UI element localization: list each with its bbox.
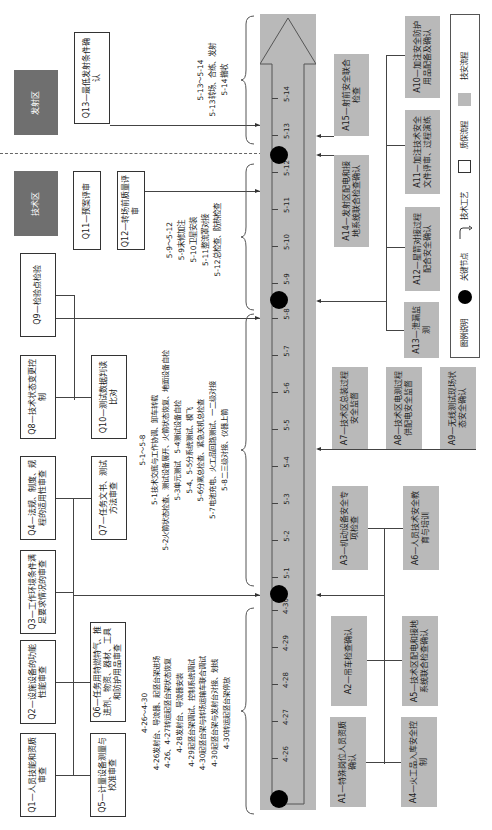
process-line: 4-30起竖台架与转场运输车联合调试: [198, 623, 210, 803]
tick-label: 4-29: [282, 635, 290, 651]
tick-label: 5-13: [283, 123, 291, 139]
safety-box-a5: A5—技术区配电和接地系统联合检查确认: [402, 616, 438, 706]
process-line: 5-9末修加注: [176, 180, 188, 300]
tick-label: 5-1: [283, 567, 291, 578]
zone-label-technical: 技术区: [14, 171, 58, 236]
process-line: 4-26、4-27转运起竖台架状态恢复: [163, 623, 175, 803]
zone-divider: [0, 153, 262, 154]
quality-box-q1: Q1—人员技能和资质审查: [20, 733, 56, 817]
process-line: 5-14撤收: [219, 25, 231, 135]
brace-p1: [240, 606, 256, 816]
legend-quality-icon: [458, 160, 471, 173]
brace-p2: [240, 312, 256, 588]
process-block-p1: 4-26～4-30 4-26发射台、导流器、起竖台架进场 4-26、4-27转运…: [134, 618, 238, 808]
process-title: 5-9～5-12: [164, 180, 176, 300]
process-line: 5-7电池充电、火工品回路测试、一二级对接: [207, 325, 219, 575]
quality-box-q13: Q13—最低发射条件确认: [74, 32, 110, 124]
legend-safety-icon: [458, 93, 471, 106]
tick-label: 5-9: [283, 273, 291, 284]
legend-quality-label: 质保流程: [451, 115, 479, 155]
process-line: 5-3单元测试 5-4测试设备自检: [172, 325, 184, 575]
quality-box-q9: Q9—检验点检验: [20, 253, 56, 337]
tick-label: 5-7: [283, 345, 291, 356]
tick-label: 5-14: [283, 86, 291, 102]
legend-key-node-label: 关键节点: [451, 247, 479, 287]
safety-box-a9: A9—无线测试现场状态安全确认: [440, 367, 476, 449]
safety-box-a7: A7—技术区总装过程安全监督: [332, 367, 368, 449]
safety-box-a8: A8—技术区电测过程供配电安全监督: [386, 367, 422, 449]
quality-box-q5: Q5—计量设备测量与校准审查: [90, 733, 126, 817]
safety-box-a12: A12—星箭对接过程配合安全确认: [405, 207, 440, 291]
quality-box-q7: Q7—任务文书、测试方法审查: [91, 456, 127, 540]
key-node-icon: [270, 790, 288, 808]
process-title: 5-13～5-14: [195, 25, 207, 135]
process-line: 5-6分离总检查、紧急关机总检查: [196, 325, 208, 575]
key-node-icon: [270, 146, 288, 164]
brace-p4: [240, 14, 256, 146]
process-line: 4-30转运起竖台架停放: [221, 623, 233, 803]
process-line: 4-29起竖台架调试、控制系统调试: [186, 623, 198, 803]
process-line: 5-8二三级对接、仪器上箭: [219, 325, 231, 575]
quality-box-q12: Q12—转场前质量评审: [117, 171, 145, 250]
tick-label: 5-4: [283, 456, 291, 467]
safety-box-a15: A15—射前安全联合检查: [334, 54, 369, 136]
safety-box-a3: A3—机动设备安全专项检查: [332, 486, 368, 570]
safety-box-a10: A10—加注安全防护用品配备及确认: [405, 16, 440, 98]
tick-label: 5-2: [283, 530, 291, 541]
process-line: 5-4、5-5分系统测试、模飞: [184, 325, 196, 575]
tick-label: 4-26: [282, 746, 290, 762]
tick-label: 5-3: [283, 493, 291, 504]
process-line: 5-13转场、合练、发射: [207, 25, 219, 135]
safety-box-a11: A11—加注技术安全文件评审、过程演练: [405, 110, 440, 194]
process-block-p3: 5-9～5-12 5-9末修加注 5-10卫星安装 5-11整流罩对接 5-12…: [152, 180, 236, 300]
tick-label: 5-11: [283, 197, 291, 213]
safety-box-a13: A13—泄漏监测: [404, 302, 439, 358]
process-block-p4: 5-13～5-14 5-13转场、合练、发射 5-14撤收: [188, 30, 238, 130]
process-line: 5-12总检查、防热检查: [212, 180, 224, 300]
process-block-p2: 5-1～5-8 5-1技术交底与工作协调、卸车转载 5-2火箭状态检查、测试设备…: [130, 325, 238, 575]
quality-box-q4: Q4—法规、制度、规程的适用性审查: [20, 456, 56, 540]
process-line: 5-10卫星安装: [188, 180, 200, 300]
process-line: 4-30起竖台架与发射台对接、划线: [209, 623, 221, 803]
tick-label: 4-27: [282, 709, 290, 725]
quality-box-q3: Q3—工作环境条件满足要求情况的审查: [20, 550, 56, 634]
legend-title: 图例说明: [451, 311, 479, 355]
process-line: 4-26发射台、导流器、起竖台架进场: [151, 623, 163, 803]
process-line: 5-11整流罩对接: [200, 180, 212, 300]
key-node-icon: [270, 585, 288, 603]
key-node-icon: [270, 291, 288, 309]
quality-box-q11: Q11—预案评审: [73, 171, 101, 250]
quality-box-q10: Q10—测试数据判读比对: [91, 355, 127, 439]
tick-label: 5-5: [283, 419, 291, 430]
safety-box-a4: A4—火工品入库安全控制: [401, 717, 437, 807]
safety-box-a6: A6—人员技术安全教育与培训: [403, 486, 439, 570]
legend-tech-process-label: 技术工艺: [451, 187, 479, 225]
tick-label: 5-8: [283, 308, 291, 319]
safety-box-a14: A14—发射区配电和接地系统联合检查确认: [334, 155, 369, 247]
process-title: 5-1～5-8: [137, 325, 149, 575]
brace-p3: [240, 162, 256, 312]
quality-box-q2: Q2—设施设备的功能性能审查: [20, 640, 56, 724]
process-title: 4-26～4-30: [139, 623, 151, 803]
safety-box-a2: A2—吊车检查确认: [331, 616, 367, 706]
tick-label: 5-10: [283, 234, 291, 250]
legend-tech-process-icon: [457, 225, 473, 241]
safety-box-a1: A1—特殊岗位人员资质确认: [330, 717, 366, 807]
legend-safety-label: 技安流程: [451, 45, 479, 87]
legend: 图例说明 关键节点 技术工艺 质保流程 技安流程: [450, 14, 480, 358]
zone-label-launch: 发射区: [14, 70, 58, 135]
process-line: 5-2火箭状态检查、测试设备展开、火箭状态恢复、地面设备自检: [161, 325, 173, 575]
process-line: 5-1技术交底与工作协调、卸车转载: [149, 325, 161, 575]
quality-box-q6: Q6—任务用特燃特气、推进剂、物资、器材、工具和防护用品审查: [90, 622, 126, 722]
legend-key-node-icon: [458, 290, 472, 304]
process-line: 4-28发射台、导流器安装: [174, 623, 186, 803]
tick-label: 5-6: [283, 382, 291, 393]
quality-box-q8: Q8—技术状态变更控制: [20, 355, 56, 439]
tick-label: 5-12: [283, 160, 291, 176]
tick-label: 4-28: [282, 672, 290, 688]
